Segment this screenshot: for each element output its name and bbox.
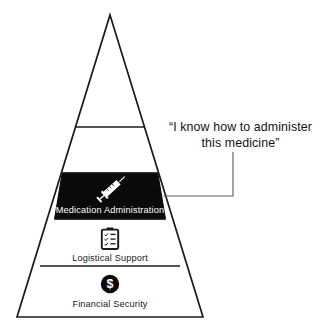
svg-text:$: $ [106, 277, 113, 291]
tier-label-medication-administration: Medication Administration [0, 205, 220, 216]
callout-line-2: this medicine” [160, 136, 321, 152]
pyramid-outline [17, 15, 203, 317]
tier-label-financial-security: Financial Security [0, 299, 220, 310]
pyramid-diagram: $ Medication Administration Logistical S… [0, 0, 321, 334]
tier-label-logistical-support: Logistical Support [0, 253, 220, 264]
callout-line-1: “I know how to administer [169, 120, 312, 134]
clipboard-checklist-icon [102, 227, 118, 249]
pyramid-graphic: $ [0, 0, 321, 334]
dollar-circle-icon: $ [101, 275, 119, 293]
callout-leader-line [164, 152, 234, 196]
callout-annotation: “I know how to administer this medicine” [160, 120, 321, 151]
